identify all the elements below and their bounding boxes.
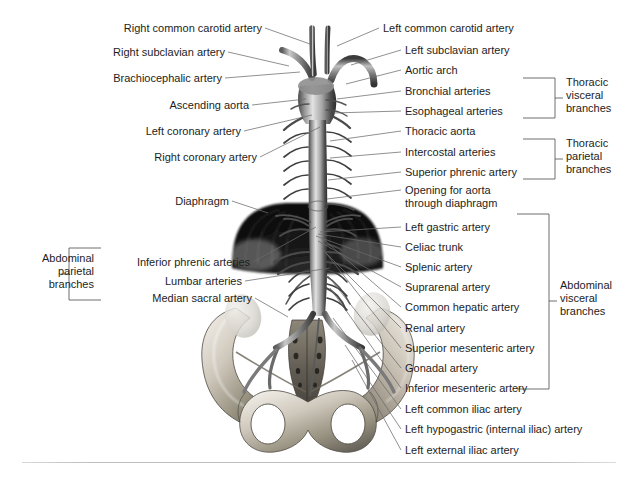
group-label-line3: branches [560, 305, 612, 318]
label-common-hepatic-artery: Common hepatic artery [405, 301, 519, 313]
label-lumbar-arteries: Lumbar arteries [165, 275, 242, 287]
label-text: Left common carotid artery [383, 22, 514, 34]
group-label-line3: branches [42, 278, 94, 291]
footer-rule [22, 462, 616, 463]
bracket-thoracic-parietal-branches [523, 139, 563, 179]
label-text: Bronchial arteries [405, 85, 491, 97]
label-text: Superior phrenic artery [405, 166, 517, 178]
label-text: Thoracic aorta [405, 125, 475, 137]
label-left-coronary-artery: Left coronary artery [146, 125, 241, 137]
group-label-line2: visceral [566, 89, 611, 102]
label-text: Gonadal artery [405, 362, 478, 374]
group-label-line3: branches [566, 102, 611, 115]
label-left-external-iliac-artery: Left external iliac artery [405, 444, 519, 456]
figure-canvas: Right common carotid arteryRight subclav… [0, 0, 636, 478]
group-label-abdominal-parietal-branches: Abdominalparietalbranches [42, 252, 94, 291]
label-text: Renal artery [405, 322, 465, 334]
group-label-thoracic-visceral-branches: Thoracicvisceralbranches [566, 76, 611, 115]
label-text: Celiac trunk [405, 241, 463, 253]
label-text: Left external iliac artery [405, 444, 519, 456]
label-right-coronary-artery: Right coronary artery [154, 151, 257, 163]
label-text: Left gastric artery [405, 221, 490, 233]
label-left-subclavian-artery: Left subclavian artery [405, 44, 510, 56]
label-inferior-phrenic-arteries: Inferior phrenic arteries [137, 256, 250, 268]
bracket-abdominal-visceral-branches [517, 214, 557, 389]
label-text: Splenic artery [405, 261, 472, 273]
label-right-subclavian-artery: Right subclavian artery [113, 46, 225, 58]
bracket-thoracic-visceral-branches [523, 78, 563, 118]
label-text: Left hypogastric (internal iliac) artery [405, 423, 582, 435]
label-median-sacral-artery: Median sacral artery [152, 292, 252, 304]
label-text-line2: through diaphragm [405, 197, 497, 210]
label-superior-mesenteric-artery: Superior mesenteric artery [405, 342, 535, 354]
label-celiac-trunk: Celiac trunk [405, 241, 463, 253]
group-label-line1: Abdominal [560, 279, 612, 292]
label-text: Esophageal arteries [405, 105, 503, 117]
label-esophageal-arteries: Esophageal arteries [405, 105, 503, 117]
label-splenic-artery: Splenic artery [405, 261, 472, 273]
label-text: Suprarenal artery [405, 281, 490, 293]
label-text: Intercostal arteries [405, 146, 495, 158]
label-right-common-carotid-artery: Right common carotid artery [124, 22, 262, 34]
label-intercostal-arteries: Intercostal arteries [405, 146, 495, 158]
label-brachiocephalic-artery: Brachiocephalic artery [113, 72, 222, 84]
label-suprarenal-artery: Suprarenal artery [405, 281, 490, 293]
label-left-hypogastric-internal-iliac-artery: Left hypogastric (internal iliac) artery [405, 423, 582, 435]
label-aortic-arch: Aortic arch [405, 64, 458, 76]
label-text: Inferior mesenteric artery [405, 382, 527, 394]
group-label-thoracic-parietal-branches: Thoracicparietalbranches [566, 137, 611, 176]
group-label-line2: parietal [42, 265, 94, 278]
group-label-line3: branches [566, 163, 611, 176]
group-label-line1: Thoracic [566, 76, 611, 89]
group-label-line1: Thoracic [566, 137, 611, 150]
label-diaphragm: Diaphragm [175, 195, 229, 207]
label-left-common-iliac-artery: Left common iliac artery [405, 403, 522, 415]
group-label-line1: Abdominal [42, 252, 94, 265]
label-text: Opening for aorta [405, 184, 497, 197]
label-text: Left subclavian artery [405, 44, 510, 56]
label-opening-for-aorta-through-diaphragm: Opening for aortathrough diaphragm [405, 184, 497, 209]
label-superior-phrenic-artery: Superior phrenic artery [405, 166, 517, 178]
label-text: Superior mesenteric artery [405, 342, 535, 354]
anatomy-illustration [0, 0, 636, 478]
label-bronchial-arteries: Bronchial arteries [405, 85, 491, 97]
label-text: Aortic arch [405, 64, 458, 76]
label-thoracic-aorta: Thoracic aorta [405, 125, 475, 137]
label-text: Common hepatic artery [405, 301, 519, 313]
group-label-line2: parietal [566, 150, 611, 163]
label-inferior-mesenteric-artery: Inferior mesenteric artery [405, 382, 527, 394]
label-left-gastric-artery: Left gastric artery [405, 221, 490, 233]
group-label-line2: visceral [560, 292, 612, 305]
label-left-common-carotid-artery: Left common carotid artery [383, 22, 514, 34]
label-text: Left common iliac artery [405, 403, 522, 415]
group-label-abdominal-visceral-branches: Abdominalvisceralbranches [560, 279, 612, 318]
label-renal-artery: Renal artery [405, 322, 465, 334]
label-ascending-aorta: Ascending aorta [170, 99, 250, 111]
label-gonadal-artery: Gonadal artery [405, 362, 478, 374]
